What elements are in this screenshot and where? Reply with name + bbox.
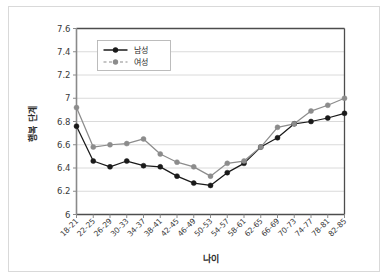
data-point-marker [141, 136, 146, 141]
data-point-marker [225, 170, 230, 175]
data-point-marker [74, 124, 79, 129]
data-point-marker [158, 164, 163, 169]
data-point-marker [191, 181, 196, 186]
y-tick-label: 6.4 [57, 163, 71, 173]
data-point-marker [325, 116, 330, 121]
y-tick-label: 6 [65, 210, 70, 220]
data-point-marker [258, 145, 263, 150]
data-point-marker [175, 174, 180, 179]
data-point-marker [74, 105, 79, 110]
x-tick-label: 82-85 [326, 216, 348, 238]
data-point-marker [91, 159, 96, 164]
data-point-marker [108, 164, 113, 169]
data-point-marker [208, 174, 213, 179]
data-point-marker [309, 119, 314, 124]
y-tick-label: 6.6 [57, 140, 71, 150]
data-point-marker [91, 145, 96, 150]
legend-marker-sample [113, 59, 118, 64]
data-point-marker [141, 163, 146, 168]
data-point-marker [124, 159, 129, 164]
y-tick-label: 6.2 [57, 186, 71, 196]
data-point-marker [124, 141, 129, 146]
line-chart-svg: 66.26.46.66.877.27.47.6 18-2122-2526-293… [0, 0, 389, 279]
data-point-marker [275, 125, 280, 130]
y-tick-label: 7.6 [57, 24, 71, 34]
data-point-marker [342, 111, 347, 116]
plot-wrapper: 66.26.46.66.877.27.47.6 18-2122-2526-293… [0, 0, 389, 279]
legend: 남성여성 [98, 41, 171, 71]
data-point-marker [342, 96, 347, 101]
y-axis-ticks: 66.26.46.66.877.27.47.6 [57, 24, 77, 220]
data-point-marker [292, 121, 297, 126]
data-point-marker [325, 103, 330, 108]
y-tick-label: 7.4 [57, 47, 71, 57]
data-point-marker [275, 135, 280, 140]
data-point-marker [208, 183, 213, 188]
y-tick-label: 6.8 [57, 117, 71, 127]
legend-marker-sample [113, 47, 118, 52]
x-axis-ticks: 18-2122-2526-2930-3334-3738-4142-4546-49… [58, 215, 348, 239]
data-point-marker [158, 152, 163, 157]
series-markers-group [74, 96, 347, 188]
y-tick-label: 7 [65, 93, 70, 103]
y-tick-label: 7.2 [57, 70, 71, 80]
data-point-marker [225, 161, 230, 166]
chart-figure: 66.26.46.66.877.27.47.6 18-2122-2526-293… [0, 0, 389, 279]
data-point-marker [191, 164, 196, 169]
data-point-marker [175, 160, 180, 165]
legend-entry-label: 남성 [134, 46, 148, 55]
data-point-marker [309, 109, 314, 114]
data-point-marker [108, 142, 113, 147]
x-axis-title: 나이 [203, 253, 219, 264]
data-point-marker [242, 159, 247, 164]
y-axis-title: 행복 단계 [27, 106, 38, 141]
legend-entry-label: 여성 [134, 57, 148, 67]
series-lines-group [77, 98, 345, 185]
